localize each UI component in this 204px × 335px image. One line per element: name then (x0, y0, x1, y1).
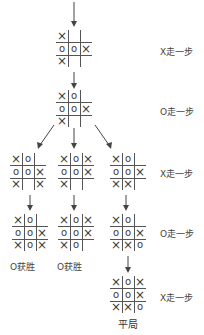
x-mark: × (34, 166, 46, 178)
step-label-o: O走一步 (160, 227, 194, 240)
x-mark: × (36, 227, 48, 239)
arrow-mid-branch-icon (71, 128, 77, 149)
x-mark: × (82, 214, 94, 226)
o-mark: o (22, 153, 34, 165)
x-mark: × (56, 30, 68, 42)
o-mark: o (122, 227, 134, 239)
o-mark: o (24, 214, 36, 226)
board-level1: ×oo×× (56, 30, 92, 67)
board-level3-right: ×ooo××× (110, 153, 146, 190)
step-label-x: X走一步 (160, 167, 193, 180)
empty-cell (70, 178, 82, 190)
o-mark: o (24, 227, 36, 239)
x-mark: × (58, 153, 70, 165)
empty-cell (36, 214, 48, 226)
empty-cell (134, 214, 146, 226)
empty-cell (22, 178, 34, 190)
empty-cell (68, 55, 80, 67)
step-label-x: X走一步 (160, 45, 193, 58)
arrow-down-icon (125, 256, 131, 273)
x-mark: × (80, 43, 92, 55)
o-mark: o (122, 153, 134, 165)
board-level4-mid: ×o×oo××o (58, 214, 94, 251)
board-level3-left: ×ooo××× (10, 153, 46, 190)
empty-cell (80, 30, 92, 42)
o-mark: o (122, 289, 134, 301)
o-mark: o (70, 214, 82, 226)
o-mark: o (122, 276, 134, 288)
o-mark: o (68, 103, 80, 115)
empty-cell (68, 30, 80, 42)
x-mark: × (58, 214, 70, 226)
x-mark: × (134, 276, 146, 288)
empty-cell (82, 178, 94, 190)
x-mark: × (110, 239, 122, 251)
x-mark: × (122, 239, 134, 251)
o-mark: o (70, 166, 82, 178)
arrow-right-branch-icon (95, 125, 112, 149)
x-mark: × (110, 301, 122, 313)
arrow-down-icon (123, 195, 129, 211)
o-mark: o (110, 166, 122, 178)
x-mark: × (36, 239, 48, 251)
empty-cell (82, 239, 94, 251)
o-mark: o (24, 239, 36, 251)
x-mark: × (58, 239, 70, 251)
x-mark: × (12, 239, 24, 251)
outcome-o-wins-mid: O获胜 (57, 260, 82, 273)
outcome-o-wins-left: O获胜 (10, 260, 35, 273)
x-mark: × (82, 153, 94, 165)
x-mark: × (34, 178, 46, 190)
arrow-down-icon (71, 195, 77, 211)
x-mark: × (122, 178, 134, 190)
step-label-o: O走一步 (160, 105, 194, 118)
o-mark: o (134, 239, 146, 251)
x-mark: × (110, 276, 122, 288)
arrow-down-icon (71, 2, 77, 27)
empty-cell (80, 90, 92, 102)
x-mark: × (82, 227, 94, 239)
x-mark: × (122, 301, 134, 313)
x-mark: × (134, 166, 146, 178)
empty-cell (80, 115, 92, 127)
x-mark: × (10, 153, 22, 165)
o-mark: o (70, 153, 82, 165)
x-mark: × (12, 214, 24, 226)
o-mark: o (10, 166, 22, 178)
o-mark: o (58, 166, 70, 178)
empty-cell (34, 153, 46, 165)
empty-cell (68, 115, 80, 127)
board-level2: ×ooo×× (56, 90, 92, 127)
x-mark: × (56, 90, 68, 102)
x-mark: × (10, 178, 22, 190)
arrow-down-icon (27, 195, 33, 211)
board-level4-right: ×ooo×××o (110, 214, 146, 251)
x-mark: × (134, 289, 146, 301)
x-mark: × (56, 115, 68, 127)
empty-cell (134, 153, 146, 165)
x-mark: × (56, 55, 68, 67)
o-mark: o (122, 166, 134, 178)
o-mark: o (134, 301, 146, 313)
step-label-x: X走一步 (160, 291, 193, 304)
outcome-draw: 平局 (118, 316, 138, 331)
x-mark: × (134, 227, 146, 239)
o-mark: o (68, 90, 80, 102)
o-mark: o (122, 214, 134, 226)
board-level3-mid: ×o×oo×× (58, 153, 94, 190)
x-mark: × (110, 178, 122, 190)
empty-cell (80, 55, 92, 67)
o-mark: o (58, 227, 70, 239)
arrow-down-icon (71, 72, 77, 89)
o-mark: o (56, 103, 68, 115)
o-mark: o (22, 166, 34, 178)
o-mark: o (110, 227, 122, 239)
board-level5: ×o×oo×××o (110, 276, 146, 313)
arrow-left-branch-icon (37, 125, 54, 149)
x-mark: × (110, 214, 122, 226)
o-mark: o (70, 227, 82, 239)
empty-cell (134, 178, 146, 190)
o-mark: o (56, 43, 68, 55)
x-mark: × (58, 178, 70, 190)
x-mark: × (80, 103, 92, 115)
